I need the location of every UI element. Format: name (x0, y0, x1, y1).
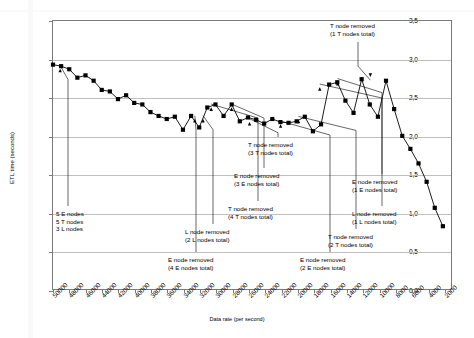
annotation-line: E node removed (234, 172, 279, 180)
annotation-line: E node removed (300, 256, 345, 264)
annotation-line: (3 T nodes total) (248, 149, 293, 157)
annotation-line: E node removed (168, 256, 213, 264)
annotation-line: (2 T nodes total) (328, 241, 373, 249)
annotation-line: (2 E nodes total) (300, 264, 345, 272)
annotation-line: E node removed (352, 178, 397, 186)
annotation-line: (1 L nodes total) (352, 218, 397, 226)
annotation-line: (1 E nodes total) (352, 186, 397, 194)
annotation-line: (1 T nodes total) (330, 30, 375, 38)
annotation-line: (4 T nodes total) (228, 213, 273, 221)
annotation-line: (4 E nodes total) (168, 264, 213, 272)
annotation-line: L node removed (352, 210, 397, 218)
annotation-t-removed-1: T node removed(1 T nodes total) (330, 22, 375, 37)
annotation-line: T node removed (330, 22, 375, 30)
annotation-line: T node removed (228, 205, 273, 213)
etl-time-chart-figure: ETL time (seconds) 0,00,51,01,52,02,53,0… (0, 0, 474, 338)
annotation-line: (2 L nodes total) (185, 236, 230, 244)
annotation-l-removed-2: L node removed(2 L nodes total) (185, 228, 230, 243)
annotation-t-removed-3: T node removed(3 T nodes total) (248, 141, 293, 156)
annotation-line: T node removed (248, 141, 293, 149)
annotation-line: 5 E nodes (56, 210, 84, 218)
annotation-line: (3 E nodes total) (234, 180, 279, 188)
annotation-l-removed-1: L node removed(1 L nodes total) (352, 210, 397, 225)
annotation-e-removed-2: E node removed(2 E nodes total) (300, 256, 345, 271)
annotation-e-removed-4: E node removed(4 E nodes total) (168, 256, 213, 271)
annotation-t-removed-2: T node removed(2 T nodes total) (328, 233, 373, 248)
annotation-line: L node removed (185, 228, 230, 236)
annotation-baseline: 5 E nodes5 T nodes3 L nodes (56, 210, 84, 233)
annotation-line: T node removed (328, 233, 373, 241)
annotation-e-removed-3: E node removed(3 E nodes total) (234, 172, 279, 187)
annotation-e-removed-1: E node removed(1 E nodes total) (352, 178, 397, 193)
annotation-line: 3 L nodes (56, 225, 84, 233)
annotation-t-removed-4: T node removed(4 T nodes total) (228, 205, 273, 220)
annotation-line: 5 T nodes (56, 218, 84, 226)
annotation-labels: 5 E nodes5 T nodes3 L nodesE node remove… (0, 0, 474, 338)
